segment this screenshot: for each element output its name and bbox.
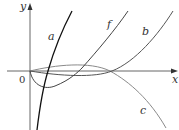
curve-f-label: f [106, 18, 113, 31]
y-axis-arrow [28, 3, 33, 10]
y-axis-label: y [19, 0, 27, 13]
graph: y x 0 a f b c [0, 0, 179, 130]
origin-label: 0 [19, 74, 25, 85]
curve-b [30, 11, 173, 76]
curve-b-label: b [142, 25, 149, 38]
curve-c-label: c [140, 104, 146, 117]
curve-a [37, 11, 72, 130]
x-axis-label: x [172, 73, 179, 86]
curve-a-label: a [48, 30, 55, 43]
